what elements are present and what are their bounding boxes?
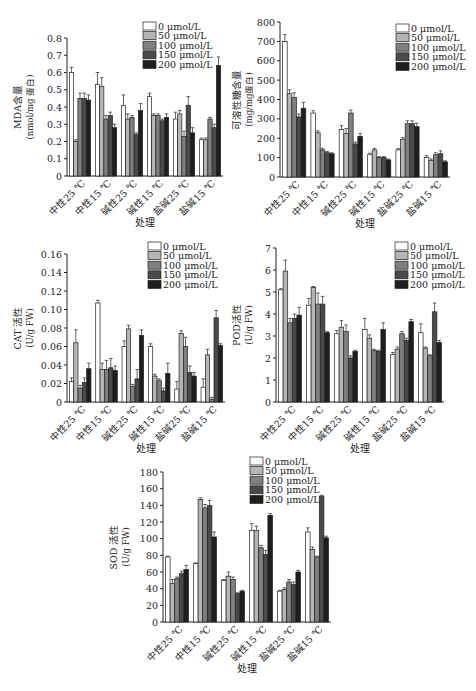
- bar: [112, 128, 116, 176]
- y-tick-label: 0.12: [41, 286, 62, 297]
- bar: [311, 113, 316, 177]
- y-tick-label: 100: [140, 533, 158, 544]
- bar: [344, 133, 349, 177]
- y-tick-label: 0.14: [41, 267, 62, 278]
- bar: [126, 329, 130, 402]
- bar: [194, 564, 199, 622]
- y-tick-label: 40: [146, 583, 158, 594]
- y-axis-label: POD活性: [231, 304, 242, 346]
- bar: [201, 387, 205, 402]
- y-tick-label: 6: [265, 265, 271, 276]
- bar: [381, 158, 386, 177]
- figure-caption-fragment: [6, 680, 476, 691]
- legend-swatch: [396, 43, 409, 51]
- bar: [287, 582, 292, 622]
- bar: [82, 98, 86, 176]
- y-tick-label: 700: [257, 36, 275, 47]
- y-tick-label: 0: [269, 172, 275, 183]
- bar: [175, 389, 179, 402]
- bar: [377, 158, 382, 177]
- bar: [188, 372, 192, 402]
- soluble-sugar-svg: 0100200300400500600700800可溶性糖含量(mg/mg蛋白)…: [238, 0, 476, 232]
- legend-swatch: [148, 252, 161, 260]
- mda-chart: 00.10.20.30.40.50.60.70.8MDA含量(nmol/mg 蛋…: [0, 0, 238, 232]
- bar: [69, 382, 73, 402]
- legend-label: 200 μmol/L: [410, 279, 465, 290]
- bar: [126, 119, 130, 176]
- bar: [152, 116, 156, 176]
- bar: [131, 386, 135, 402]
- y-tick-label: 100: [257, 152, 275, 163]
- bar: [148, 347, 152, 403]
- y-tick-label: 0.4: [47, 102, 62, 113]
- bar: [108, 116, 112, 176]
- x-axis-title: 处理: [136, 443, 156, 454]
- bar: [372, 150, 377, 177]
- bar: [437, 343, 442, 402]
- y-axis-label: MDA含量: [12, 85, 23, 129]
- bar: [432, 312, 437, 402]
- bar: [212, 128, 216, 176]
- bar: [104, 370, 108, 402]
- y-axis-unit-label: (nmol/mg 蛋白): [25, 74, 35, 139]
- bar: [263, 555, 268, 623]
- bar: [135, 379, 139, 402]
- y-axis-unit-label: (U/g FW): [121, 527, 131, 566]
- bar: [368, 155, 373, 177]
- pod-chart: 01234567POD活性(U/g FW)中性25 ℃中性15 ℃碱性25 ℃碱…: [238, 232, 476, 460]
- bar: [443, 162, 448, 177]
- bar: [279, 290, 284, 402]
- y-tick-label: 1: [265, 375, 271, 386]
- legend-swatch: [396, 34, 409, 42]
- bar: [335, 334, 340, 402]
- bar: [278, 591, 283, 622]
- legend-swatch: [395, 271, 408, 279]
- legend-swatch: [148, 242, 161, 250]
- bar: [160, 121, 164, 176]
- legend-swatch: [148, 271, 161, 279]
- y-tick-label: 20: [146, 600, 158, 611]
- bar: [381, 329, 386, 402]
- y-tick-label: 80: [146, 550, 158, 561]
- bar: [164, 117, 168, 176]
- bar: [296, 117, 301, 177]
- bar: [190, 133, 194, 176]
- bar: [429, 161, 434, 177]
- y-tick-label: 2: [265, 353, 271, 364]
- bar: [283, 271, 288, 402]
- y-axis-unit-label: (U/g FW): [244, 305, 254, 344]
- bar: [139, 335, 143, 402]
- bar: [113, 371, 117, 402]
- y-tick-label: 60: [146, 567, 158, 578]
- bar: [74, 142, 78, 177]
- bar: [268, 515, 273, 622]
- bar: [147, 97, 151, 176]
- y-axis-unit-label: (mg/mg蛋白): [244, 72, 254, 127]
- y-tick-label: 7: [265, 243, 271, 254]
- bar: [325, 333, 330, 402]
- bar: [153, 376, 157, 402]
- bar: [226, 576, 231, 622]
- soluble-sugar-chart: 0100200300400500600700800可溶性糖含量(mg/mg蛋白)…: [238, 0, 476, 232]
- y-axis-unit-label: (U/g FW): [25, 308, 35, 347]
- bar: [386, 160, 391, 177]
- legend-swatch: [250, 467, 263, 475]
- sod-svg: 020406080100120140160180SOD 活性(U/g FW)中性…: [118, 455, 358, 680]
- bar: [348, 358, 353, 402]
- cat-svg: 00.020.040.060.080.100.120.140.16CAT 活性(…: [0, 232, 238, 460]
- bar: [192, 376, 196, 402]
- x-axis-title: 处理: [350, 443, 370, 454]
- bar: [428, 356, 433, 402]
- legend-swatch: [395, 242, 408, 250]
- y-tick-label: 140: [140, 500, 158, 511]
- legend-swatch: [250, 495, 263, 503]
- y-tick-label: 3: [265, 331, 271, 342]
- bar: [419, 333, 424, 402]
- y-tick-label: 800: [257, 17, 275, 28]
- bar: [203, 508, 208, 622]
- bar: [69, 73, 73, 177]
- legend-swatch: [143, 41, 156, 49]
- legend-swatch: [396, 53, 409, 61]
- bar: [353, 144, 358, 177]
- y-tick-label: 600: [257, 55, 275, 66]
